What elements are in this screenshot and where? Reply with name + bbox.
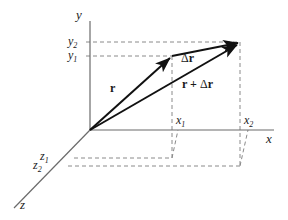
delta-symbol: Δ bbox=[181, 51, 189, 65]
diagram-canvas bbox=[0, 0, 288, 220]
axis-lines bbox=[14, 21, 274, 208]
sum-r-second: r bbox=[208, 77, 213, 91]
projection-lines bbox=[68, 42, 248, 166]
sum-delta-symbol: Δ bbox=[200, 77, 208, 91]
y-axis-label: y bbox=[76, 8, 82, 21]
z-axis-line bbox=[14, 130, 90, 208]
tick-label-x2: x2 bbox=[244, 114, 253, 126]
tick-x2-sub: 2 bbox=[249, 120, 253, 129]
tick-x1-sub: 1 bbox=[181, 120, 185, 129]
tick-z1-sub: 1 bbox=[45, 156, 49, 165]
vector-diagram-figure: y x z y2 y1 x1 x2 z1 z2 r Δr r + Δr bbox=[0, 0, 288, 220]
vector-label-sum: r + Δr bbox=[182, 78, 213, 90]
tick-label-x1: x1 bbox=[176, 114, 185, 126]
vector-r-arrow bbox=[90, 58, 170, 130]
tick-label-y1: y1 bbox=[68, 49, 77, 61]
delta-r-base: r bbox=[189, 51, 194, 65]
vector-label-r: r bbox=[110, 82, 115, 94]
guide-x1-oblique bbox=[172, 130, 178, 158]
tick-y1-sub: 1 bbox=[73, 55, 77, 64]
vector-label-delta-r: Δr bbox=[181, 52, 194, 64]
tick-z2-base: z bbox=[33, 158, 38, 172]
x-axis-label: x bbox=[266, 132, 272, 145]
tick-label-y2: y2 bbox=[68, 35, 77, 47]
tick-z2-sub: 2 bbox=[38, 165, 42, 174]
guide-x2-oblique bbox=[240, 130, 248, 166]
sum-r-first: r + bbox=[182, 77, 200, 91]
tick-label-z2: z2 bbox=[33, 159, 42, 171]
z-axis-label: z bbox=[20, 198, 25, 211]
